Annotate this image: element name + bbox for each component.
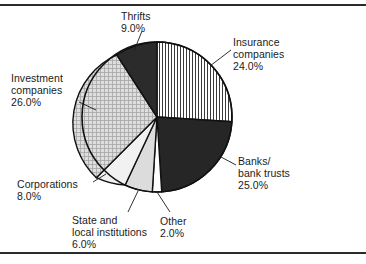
slice-label-banks-name-2: bank trusts bbox=[238, 167, 290, 179]
slice-label-thrifts-name: Thrifts bbox=[121, 10, 151, 22]
slice-label-insurance-name-2: companies bbox=[233, 48, 284, 60]
pie-slices bbox=[73, 42, 232, 192]
slice-label-state-local: State and local institutions 6.0% bbox=[72, 214, 147, 251]
leader-line-insurance bbox=[210, 50, 231, 66]
slice-label-state-local-name-2: local institutions bbox=[72, 226, 147, 238]
slice-label-other-name: Other bbox=[160, 215, 187, 227]
leader-line-other bbox=[157, 192, 170, 212]
slice-label-thrifts-value: 9.0% bbox=[121, 22, 151, 34]
slice-label-corporations-value: 8.0% bbox=[17, 190, 78, 202]
slice-label-investment-name-2: companies bbox=[11, 84, 63, 96]
slice-label-investment-value: 26.0% bbox=[11, 96, 63, 108]
slice-label-corporations: Corporations 8.0% bbox=[17, 178, 78, 202]
leader-line-banks bbox=[221, 157, 236, 165]
slice-label-investment-name-1: Investment bbox=[11, 72, 63, 84]
slice-label-other-value: 2.0% bbox=[160, 227, 187, 239]
pie-slice-insurance[interactable] bbox=[157, 42, 232, 122]
slice-label-banks: Banks/ bank trusts 25.0% bbox=[238, 155, 290, 192]
slice-label-other: Other 2.0% bbox=[160, 215, 187, 239]
leader-line-state-local bbox=[128, 191, 138, 212]
slice-label-banks-value: 25.0% bbox=[238, 179, 290, 191]
slice-label-investment: Investment companies 26.0% bbox=[11, 72, 63, 109]
slice-label-banks-name-1: Banks/ bbox=[238, 155, 290, 167]
slice-label-thrifts: Thrifts 9.0% bbox=[121, 10, 151, 34]
slice-label-corporations-name: Corporations bbox=[17, 178, 78, 190]
pie-chart-figure: Thrifts 9.0% Insurance companies 24.0% B… bbox=[0, 0, 366, 264]
slice-label-state-local-name-1: State and bbox=[72, 214, 147, 226]
slice-label-insurance-value: 24.0% bbox=[233, 60, 284, 72]
slice-label-state-local-value: 6.0% bbox=[72, 238, 147, 250]
slice-label-insurance-name-1: Insurance bbox=[233, 36, 284, 48]
pie-slice-banks[interactable] bbox=[157, 117, 232, 192]
slice-label-insurance: Insurance companies 24.0% bbox=[233, 36, 284, 73]
